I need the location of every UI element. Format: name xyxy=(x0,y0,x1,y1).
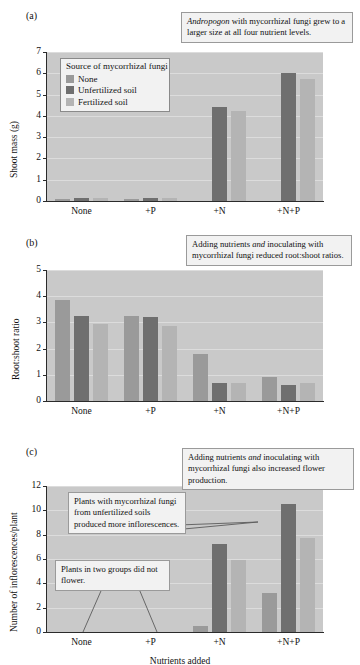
panel-c-callout-main: Adding nutrients and inoculating with my… xyxy=(182,448,354,490)
x-axis-tick-label: +P xyxy=(116,407,185,417)
x-axis-tick-label: +P xyxy=(116,207,185,217)
x-axis-tick-label: None xyxy=(47,207,116,217)
panel-b: (b) Root:shoot ratio Adding nutrients an… xyxy=(0,225,360,430)
y-axis-tick xyxy=(43,180,47,181)
bar-plusP-fert xyxy=(162,326,177,401)
bar-plusN-fert xyxy=(231,383,246,401)
y-axis-tick-label: 3 xyxy=(17,317,41,327)
y-axis-tick xyxy=(43,73,47,74)
x-axis-tick-label: +P xyxy=(116,638,185,648)
x-axis-tick-label: +N+P xyxy=(254,638,323,648)
y-axis-tick xyxy=(43,486,47,487)
y-axis-tick-label: 4 xyxy=(17,111,41,121)
bar-plusN-unfert xyxy=(212,544,227,632)
y-axis-tick xyxy=(43,401,47,402)
legend-swatch-unfertilized xyxy=(66,86,74,94)
bar-plusP-unfert xyxy=(143,317,158,401)
panel-a-letter: (a) xyxy=(26,10,37,21)
bar-plusNplusP-unfert xyxy=(281,385,296,401)
panel-c-x-axis xyxy=(46,632,324,633)
x-axis-tick-label: +N xyxy=(185,407,254,417)
y-axis-tick xyxy=(43,52,47,53)
panel-c-callout-main-pre: Adding nutrients xyxy=(188,452,248,462)
y-axis-tick-label: 3 xyxy=(17,132,41,142)
y-axis-tick xyxy=(43,116,47,117)
y-axis-tick-label: 6 xyxy=(17,554,41,564)
panel-b-x-axis xyxy=(46,401,324,402)
y-axis-tick xyxy=(43,535,47,536)
x-axis-tick-label: +N xyxy=(185,638,254,648)
panel-b-callout-italic: and xyxy=(252,239,265,249)
y-axis-tick xyxy=(43,608,47,609)
legend-swatch-none xyxy=(66,75,74,83)
bar-plusNplusP-unfert xyxy=(281,504,296,632)
y-axis-tick-label: 0 xyxy=(17,396,41,406)
y-axis-tick xyxy=(43,201,47,202)
bar-plusN-none xyxy=(193,354,208,401)
y-axis-tick-label: 2 xyxy=(17,344,41,354)
panel-c-callout-main-italic: and xyxy=(248,452,261,462)
bar-plusP-none xyxy=(124,316,139,401)
panel-b-letter: (b) xyxy=(26,237,38,248)
bar-plusNplusP-none xyxy=(262,593,277,632)
y-axis-tick xyxy=(43,510,47,511)
panel-b-callout-pre: Adding nutrients xyxy=(192,239,252,249)
bar-plusN-fert xyxy=(231,111,246,201)
bar-plusN-unfert xyxy=(212,107,227,201)
bar-plusNplusP-unfert xyxy=(281,73,296,201)
legend-item-fertilized: Fertilized soil xyxy=(66,97,163,107)
y-axis-tick-label: 0 xyxy=(17,196,41,206)
gridline xyxy=(47,296,323,297)
legend-panel-a: Source of mycorrhizal fungi None Unferti… xyxy=(60,58,170,112)
panel-a-callout-italic: Andropogon xyxy=(187,16,230,26)
legend-label-none: None xyxy=(78,74,98,84)
panel-a-callout: Andropogon with mycorrhizal fungi grew t… xyxy=(181,12,353,43)
bar-plusN-fert xyxy=(231,560,246,632)
legend-swatch-fertilized xyxy=(66,98,74,106)
figure-root: (a) Shoot mass (g) Source of mycorrhizal… xyxy=(0,0,360,665)
y-axis-tick xyxy=(43,583,47,584)
panel-a-y-axis-label: Shoot mass (g) xyxy=(10,121,20,178)
y-axis-tick-label: 1 xyxy=(17,175,41,185)
legend-item-unfertilized: Unfertilized soil xyxy=(66,85,163,95)
y-axis-tick xyxy=(43,137,47,138)
bar-plusNplusP-fert xyxy=(300,538,315,632)
y-axis-tick xyxy=(43,270,47,271)
bar-plusNplusP-none xyxy=(262,377,277,401)
x-axis-tick-label: None xyxy=(47,638,116,648)
y-axis-tick xyxy=(43,296,47,297)
bar-None-fert xyxy=(93,324,108,401)
y-axis-tick-label: 12 xyxy=(17,481,41,491)
legend-item-none: None xyxy=(66,74,163,84)
panel-c-letter: (c) xyxy=(26,446,37,457)
y-axis-tick-label: 2 xyxy=(17,153,41,163)
panel-b-callout: Adding nutrients and inoculating with my… xyxy=(186,235,352,266)
y-axis-tick xyxy=(43,559,47,560)
y-axis-tick-label: 2 xyxy=(17,603,41,613)
legend-label-fertilized: Fertilized soil xyxy=(78,97,128,107)
y-axis-tick-label: 4 xyxy=(17,291,41,301)
panel-c-callout-noflower: Plants in two groups did not flower. xyxy=(55,560,170,591)
panel-b-y-axis xyxy=(46,270,47,402)
panel-a: (a) Shoot mass (g) Source of mycorrhizal… xyxy=(0,0,360,225)
bar-None-unfert xyxy=(74,316,89,401)
legend-label-unfertilized: Unfertilized soil xyxy=(78,85,137,95)
x-axis-tick-label: +N+P xyxy=(254,207,323,217)
y-axis-tick xyxy=(43,322,47,323)
x-axis-tick-label: +N+P xyxy=(254,407,323,417)
panel-c-callout-unfertilized: Plants with mycorrhizal fungi from unfer… xyxy=(68,492,186,534)
y-axis-tick-label: 10 xyxy=(17,505,41,515)
x-axis-tick-label: +N xyxy=(185,207,254,217)
bar-plusN-unfert xyxy=(212,383,227,401)
gridline xyxy=(47,52,323,53)
gridline xyxy=(47,270,323,271)
legend-title: Source of mycorrhizal fungi xyxy=(66,62,163,72)
panel-a-x-axis xyxy=(46,201,324,202)
panel-c: (c) Number of inflorescences/plant Addin… xyxy=(0,430,360,665)
y-axis-tick-label: 1 xyxy=(17,370,41,380)
y-axis-tick-label: 6 xyxy=(17,68,41,78)
y-axis-tick-label: 4 xyxy=(17,578,41,588)
x-axis-tick-label: None xyxy=(47,407,116,417)
bar-plusNplusP-fert xyxy=(300,383,315,401)
y-axis-tick xyxy=(43,632,47,633)
